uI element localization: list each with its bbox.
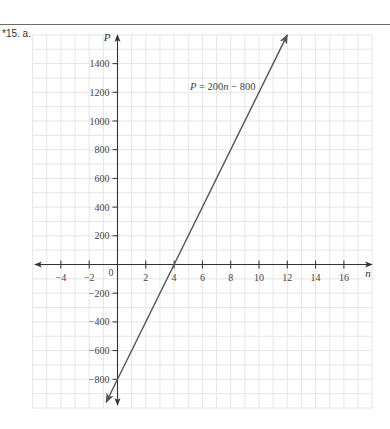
y-tick-label: 1200: [90, 87, 110, 98]
y-tick-label: 1400: [90, 58, 110, 69]
y-tick-label: 800: [95, 144, 110, 155]
y-axis-label: P: [103, 31, 111, 43]
origin-label: 0: [109, 267, 114, 278]
y-tick-label: 200: [95, 230, 110, 241]
x-tick-label: 6: [200, 272, 205, 283]
y-tick-label: 1000: [90, 116, 110, 127]
x-tick-label: 2: [143, 272, 148, 283]
x-axis-label: n: [365, 267, 371, 279]
y-tick-label: 400: [95, 202, 110, 213]
x-tick-label: 8: [228, 272, 233, 283]
x-tick-label: 14: [311, 272, 321, 283]
line-chart: −4−2246810121416014001200100080060040020…: [0, 0, 390, 429]
y-tick-label: 600: [95, 173, 110, 184]
x-tick-label: 4: [172, 272, 177, 283]
y-tick-label: −200: [89, 288, 110, 299]
y-tick-label: −800: [89, 374, 110, 385]
x-tick-label: −4: [56, 272, 67, 283]
equation-label: P = 200n − 800: [189, 81, 256, 92]
x-tick-label: 12: [282, 272, 292, 283]
x-tick-label: 10: [254, 272, 264, 283]
x-tick-label: −2: [84, 272, 95, 283]
y-tick-label: −600: [89, 345, 110, 356]
y-tick-label: −400: [89, 316, 110, 327]
x-tick-label: 16: [339, 272, 349, 283]
